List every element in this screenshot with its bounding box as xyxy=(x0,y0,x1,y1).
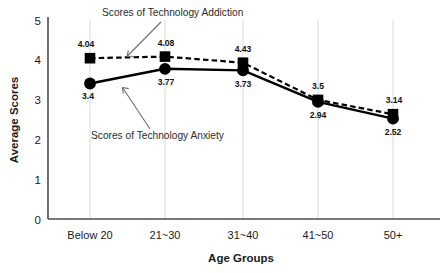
anxiety-label-2: 3.73 xyxy=(235,79,252,89)
anxiety-marker-0 xyxy=(84,78,96,90)
y-tick-2: 2 xyxy=(35,134,41,146)
addiction-marker-1 xyxy=(160,51,171,62)
anxiety-label-3: 2.94 xyxy=(310,110,327,120)
y-tick-5: 5 xyxy=(35,15,41,27)
anxiety-marker-3 xyxy=(312,96,324,108)
y-tick-1: 1 xyxy=(35,174,41,186)
anxiety-label-4: 2.52 xyxy=(385,127,402,137)
anxiety-marker-4 xyxy=(387,113,399,125)
x-tick-below-20: Below 20 xyxy=(67,229,112,241)
y-axis-title: Average Scores xyxy=(8,77,20,164)
annotation-anxiety-text: Scores of Technology Anxiety xyxy=(91,130,225,141)
y-tick-3: 3 xyxy=(35,94,41,106)
y-tick-0: 0 xyxy=(35,214,41,226)
x-tick-31-40: 31~40 xyxy=(228,229,259,241)
annotation-anxiety-leader xyxy=(123,88,151,130)
x-axis-title: Age Groups xyxy=(208,252,274,264)
addiction-label-1: 4.08 xyxy=(158,38,175,48)
addiction-label-3: 3.5 xyxy=(312,81,324,91)
addiction-label-4: 3.14 xyxy=(386,95,403,105)
x-tick-21-30: 21~30 xyxy=(150,229,181,241)
annotation-addiction-leader xyxy=(127,22,161,57)
y-axis-ticks: 0 1 2 3 4 5 xyxy=(35,15,42,226)
x-axis-ticks: Below 20 21~30 31~40 41~50 50+ xyxy=(67,229,402,241)
anxiety-label-0: 3.4 xyxy=(82,91,94,101)
annotation-addiction-text: Scores of Technology Addiction xyxy=(102,7,243,18)
addiction-label-0: 4.04 xyxy=(78,39,95,49)
annotation-technology-anxiety: Scores of Technology Anxiety xyxy=(91,88,225,142)
line-chart: 0 1 2 3 4 5 Average Scores Below 20 21~3… xyxy=(0,0,444,273)
anxiety-marker-1 xyxy=(159,63,171,75)
series-technology-anxiety: 3.4 3.77 3.73 2.94 2.52 xyxy=(82,63,402,137)
annotation-technology-addiction: Scores of Technology Addiction xyxy=(102,7,243,57)
x-tick-41-50: 41~50 xyxy=(303,229,334,241)
x-tick-50-plus: 50+ xyxy=(384,229,403,241)
chart-container: 0 1 2 3 4 5 Average Scores Below 20 21~3… xyxy=(0,0,444,273)
y-tick-4: 4 xyxy=(35,54,42,66)
anxiety-line xyxy=(90,69,393,119)
addiction-marker-0 xyxy=(85,53,96,64)
anxiety-label-1: 3.77 xyxy=(158,77,175,87)
addiction-label-2: 4.43 xyxy=(235,44,252,54)
anxiety-marker-2 xyxy=(237,65,249,77)
